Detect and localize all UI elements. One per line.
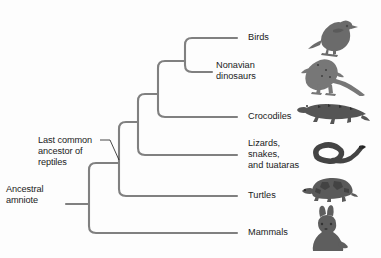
taxon-label-nonavian-dinosaurs: Nonavian dinosaurs bbox=[216, 60, 256, 82]
branch-reptiles-to-diapsids bbox=[119, 122, 138, 163]
branch-diapsids-to-lizards bbox=[138, 122, 237, 155]
taxon-label-mammals: Mammals bbox=[248, 227, 288, 238]
dinosaur-icon bbox=[296, 56, 368, 96]
taxon-label-turtles: Turtles bbox=[248, 190, 276, 201]
branch-dinosauria-to-nonavian-dinosaurs bbox=[185, 61, 212, 72]
phylogenetic-tree-figure: Last common ancestor of reptiles Ancestr… bbox=[0, 0, 381, 258]
turtle-icon bbox=[300, 172, 362, 202]
snake-icon bbox=[303, 135, 367, 167]
rabbit-icon bbox=[306, 205, 356, 251]
taxon-label-lizards-snakes-tuataras: Lizards, snakes, and tuataras bbox=[248, 138, 299, 172]
bird-icon bbox=[300, 18, 362, 58]
annotation-ancestral-amniote: Ancestral amniote bbox=[6, 184, 43, 206]
branch-root-to-mammals bbox=[89, 204, 237, 233]
crocodile-icon bbox=[296, 95, 370, 125]
branch-archosaurs-to-crocodiles bbox=[158, 94, 237, 117]
annotation-last-common-ancestor-of-reptiles: Last common ancestor of reptiles bbox=[38, 135, 92, 169]
taxon-label-birds: Birds bbox=[248, 32, 269, 43]
branch-dinosauria-to-birds bbox=[185, 38, 237, 61]
branch-root-to-reptiles bbox=[89, 163, 119, 204]
taxon-label-crocodiles: Crocodiles bbox=[248, 111, 291, 122]
leader-line-last-common-ancestor bbox=[100, 140, 119, 160]
branch-diapsids-to-archosaurs bbox=[138, 94, 158, 122]
branch-reptiles-to-turtles bbox=[119, 163, 237, 196]
branch-archosaurs-to-dinosauria bbox=[158, 61, 185, 94]
